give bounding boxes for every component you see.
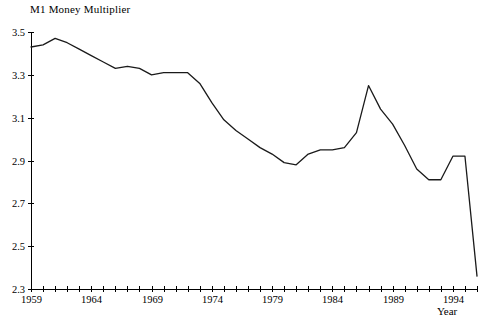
x-tick-label: 1984 bbox=[322, 294, 344, 305]
y-axis-ticks: 3.53.33.12.92.72.52.3 bbox=[12, 27, 34, 295]
series-line-m1-money-multiplier bbox=[31, 38, 477, 276]
x-axis-title: Year bbox=[437, 305, 457, 317]
x-tick-label: 1959 bbox=[21, 294, 42, 305]
x-tick-label: 1969 bbox=[142, 294, 163, 305]
y-tick-label: 3.1 bbox=[12, 113, 25, 124]
x-tick-label: 1989 bbox=[383, 294, 404, 305]
y-tick-label: 2.5 bbox=[12, 241, 25, 252]
line-chart-plot: 3.53.33.12.92.72.52.3 195919641969197419… bbox=[0, 0, 492, 329]
y-axis: 3.53.33.12.92.72.52.3 bbox=[12, 27, 34, 295]
chart-figure: M1 Money Multiplier 3.53.33.12.92.72.52.… bbox=[0, 0, 492, 329]
x-tick-label: 1979 bbox=[262, 294, 283, 305]
y-tick-label: 2.9 bbox=[12, 156, 25, 167]
x-tick-label: 1994 bbox=[443, 294, 465, 305]
data-series-group bbox=[31, 38, 477, 276]
x-tick-label: 1974 bbox=[202, 294, 224, 305]
x-tick-label: 1964 bbox=[81, 294, 103, 305]
y-tick-label: 3.3 bbox=[12, 70, 25, 81]
x-axis: 19591964196919741979198419891994 bbox=[21, 286, 478, 305]
y-tick-label: 3.5 bbox=[12, 27, 25, 38]
x-axis-ticks: 19591964196919741979198419891994 bbox=[21, 286, 478, 305]
y-tick-label: 2.7 bbox=[12, 198, 25, 209]
